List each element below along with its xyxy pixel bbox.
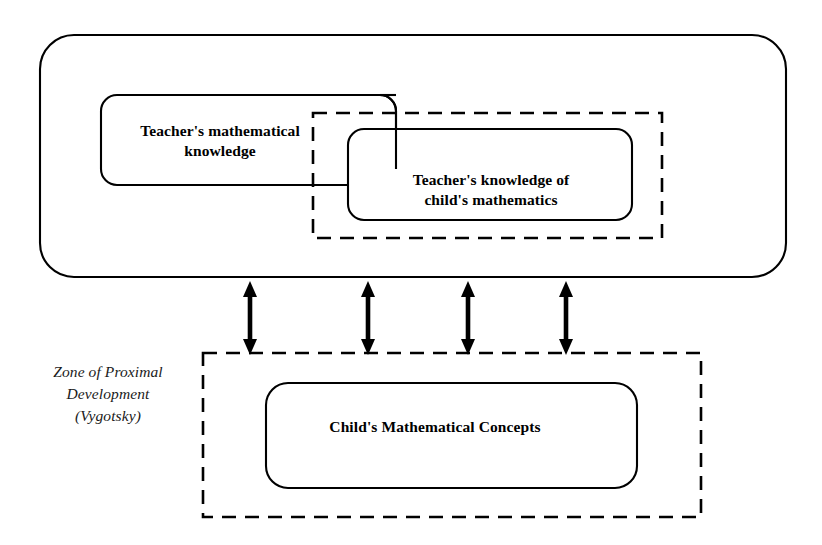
childs-mathematical-concepts-label: Child's Mathematical Concepts <box>280 417 590 437</box>
connector-arrow-1 <box>243 281 257 355</box>
connector-arrow-3 <box>461 281 475 355</box>
diagram-shapes-layer <box>0 0 822 545</box>
teacher-mathematical-knowledge-label: Teacher's mathematical knowledge <box>110 121 330 161</box>
connector-arrow-2 <box>361 281 375 355</box>
teacher-knowledge-child-math-label: Teacher's knowledge of child's mathemati… <box>366 170 616 210</box>
zone-of-proximal-development-annotation: Zone of Proximal Development (Vygotsky) <box>22 361 194 427</box>
diagram-canvas: Teacher's mathematical knowledge Teacher… <box>0 0 822 545</box>
connector-arrow-4 <box>559 281 573 355</box>
